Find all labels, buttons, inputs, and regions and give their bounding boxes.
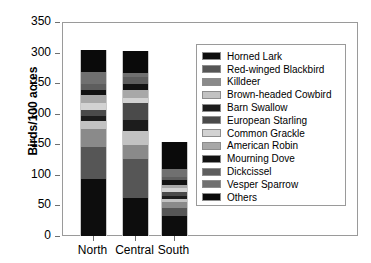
bar-segment[interactable] <box>123 131 148 145</box>
y-axis-tick-mark <box>55 83 60 84</box>
legend-swatch-icon <box>202 78 221 86</box>
legend-swatch-icon <box>202 142 221 150</box>
legend-item-label: Brown-headed Cowbird <box>227 89 332 100</box>
y-axis-tick-label: 150 <box>31 136 51 150</box>
bar-segment[interactable] <box>81 50 106 72</box>
y-axis-tick-mark <box>55 236 60 237</box>
y-axis-tick-label: 350 <box>31 14 51 28</box>
legend-item[interactable]: Mourning Dove <box>202 152 341 165</box>
y-axis-tick-label: 300 <box>31 45 51 59</box>
legend-item-label: Horned Lark <box>227 51 282 62</box>
legend-item[interactable]: European Starling <box>202 114 341 127</box>
legend-swatch-icon <box>202 104 221 112</box>
legend-swatch-icon <box>202 180 221 188</box>
y-axis-tick-label: 0 <box>44 228 51 242</box>
legend-item[interactable]: Barn Swallow <box>202 101 341 114</box>
legend-swatch-icon <box>202 91 221 99</box>
bar-segment[interactable] <box>81 103 106 110</box>
bar-segment[interactable] <box>162 169 187 177</box>
legend-item-label: Red-winged Blackbird <box>227 64 324 75</box>
legend-item-label: European Starling <box>227 115 307 126</box>
legend-item-label: Others <box>227 192 257 203</box>
legend-item[interactable]: Red-winged Blackbird <box>202 63 341 76</box>
legend-swatch-icon <box>202 52 221 60</box>
x-axis-tick-mark <box>174 236 175 241</box>
y-axis-tick-mark <box>55 144 60 145</box>
bar-segment[interactable] <box>123 159 148 198</box>
bar-segment[interactable] <box>162 202 187 209</box>
x-axis-tick-label-south: South <box>134 243 214 257</box>
bar-segment[interactable] <box>123 145 148 159</box>
legend-swatch-icon <box>202 193 221 201</box>
x-axis-tick-mark <box>93 236 94 241</box>
bar-segment[interactable] <box>123 77 148 84</box>
bar-central[interactable] <box>122 51 149 236</box>
stacked-bar-chart-figure: Birds/100 acres 350300250200150100500 No… <box>0 0 371 263</box>
legend-item[interactable]: Brown-headed Cowbird <box>202 88 341 101</box>
legend-item[interactable]: Common Grackle <box>202 127 341 140</box>
bar-north[interactable] <box>80 50 107 236</box>
y-axis-tick-label: 50 <box>38 197 51 211</box>
bar-segment[interactable] <box>162 142 187 169</box>
bar-segment[interactable] <box>81 95 106 102</box>
bar-segment[interactable] <box>81 129 106 147</box>
bar-segment[interactable] <box>81 72 106 85</box>
y-axis-tick-mark <box>55 53 60 54</box>
chart-legend: Horned LarkRed-winged BlackbirdKilldeerB… <box>196 44 346 206</box>
legend-item[interactable]: Horned Lark <box>202 50 341 63</box>
legend-item-label: American Robin <box>227 140 298 151</box>
y-axis-tick-label: 200 <box>31 106 51 120</box>
legend-swatch-icon <box>202 155 221 163</box>
legend-item[interactable]: Killdeer <box>202 76 341 89</box>
bar-segment[interactable] <box>162 216 187 236</box>
legend-swatch-icon <box>202 65 221 73</box>
legend-item[interactable]: Vesper Sparrow <box>202 178 341 191</box>
bar-segment[interactable] <box>81 147 106 179</box>
y-axis-tick-mark <box>55 205 60 206</box>
bar-segment[interactable] <box>123 90 148 98</box>
legend-item-label: Common Grackle <box>227 128 305 139</box>
bar-segment[interactable] <box>81 179 106 236</box>
legend-item-label: Dickcissel <box>227 166 271 177</box>
bar-segment[interactable] <box>123 120 148 130</box>
legend-item[interactable]: American Robin <box>202 140 341 153</box>
bar-segment[interactable] <box>162 208 187 215</box>
bar-segment[interactable] <box>123 103 148 120</box>
legend-item-label: Vesper Sparrow <box>227 179 298 190</box>
y-axis-tick-mark <box>55 22 60 23</box>
legend-item[interactable]: Dickcissel <box>202 165 341 178</box>
bar-south[interactable] <box>161 142 188 236</box>
legend-item-label: Mourning Dove <box>227 153 295 164</box>
legend-item[interactable]: Others <box>202 191 341 204</box>
x-axis-tick-mark <box>135 236 136 241</box>
legend-swatch-icon <box>202 129 221 137</box>
legend-item-label: Killdeer <box>227 76 260 87</box>
y-axis-tick-label: 250 <box>31 75 51 89</box>
legend-item-label: Barn Swallow <box>227 102 288 113</box>
bar-segment[interactable] <box>81 121 106 129</box>
bar-segment[interactable] <box>123 51 148 73</box>
y-axis-tick-mark <box>55 175 60 176</box>
legend-swatch-icon <box>202 116 221 124</box>
legend-swatch-icon <box>202 168 221 176</box>
bar-segment[interactable] <box>123 198 148 236</box>
y-axis-tick-label: 100 <box>31 167 51 181</box>
y-axis-tick-mark <box>55 114 60 115</box>
